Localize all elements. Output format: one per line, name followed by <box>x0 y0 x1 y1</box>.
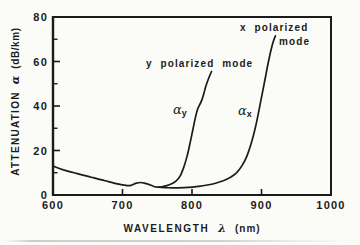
x-axis-title: WAVELENGTHλ(nm) <box>53 222 331 235</box>
alpha-y-subscript: y <box>182 108 187 118</box>
lambda-symbol: λ <box>218 222 226 235</box>
y-tick-label-40: 40 <box>28 100 48 112</box>
alpha-symbol: α <box>9 76 22 84</box>
alpha-y-curve-label: αy <box>173 100 187 118</box>
alpha-symbol: α <box>173 102 182 117</box>
curve-y-polarized <box>53 72 212 188</box>
y-tick-label-60: 60 <box>28 56 48 68</box>
x-tick-label-900: 900 <box>251 199 273 211</box>
x-tick-label-1000: 1000 <box>316 199 345 211</box>
x-axis-word: WAVELENGTH <box>123 223 209 234</box>
y-tick-label-80: 80 <box>28 11 48 23</box>
scan-artifact-line <box>4 240 354 242</box>
alpha-x-subscript: x <box>247 109 252 119</box>
alpha-symbol: α <box>238 103 247 118</box>
alpha-x-curve-label: αx <box>238 101 252 119</box>
x-polarized-mode-label-line1: x polarized <box>240 22 308 33</box>
x-polarized-mode-label-line2: mode <box>279 36 310 47</box>
attenuation-chart-figure: 0204060806007008009001000 y polarized mo… <box>0 0 360 245</box>
y-axis-unit: (dB/km) <box>10 27 21 68</box>
x-axis-unit: (nm) <box>235 223 261 234</box>
x-tick-label-600: 600 <box>42 199 64 211</box>
x-tick-label-700: 700 <box>112 199 134 211</box>
y-polarized-mode-label: y polarized mode <box>146 58 253 69</box>
x-tick-label-800: 800 <box>181 199 203 211</box>
y-axis-title: ATTENUATIONα(dB/km) <box>9 7 22 197</box>
y-tick-label-20: 20 <box>28 145 48 157</box>
y-axis-word: ATTENUATION <box>10 91 21 175</box>
